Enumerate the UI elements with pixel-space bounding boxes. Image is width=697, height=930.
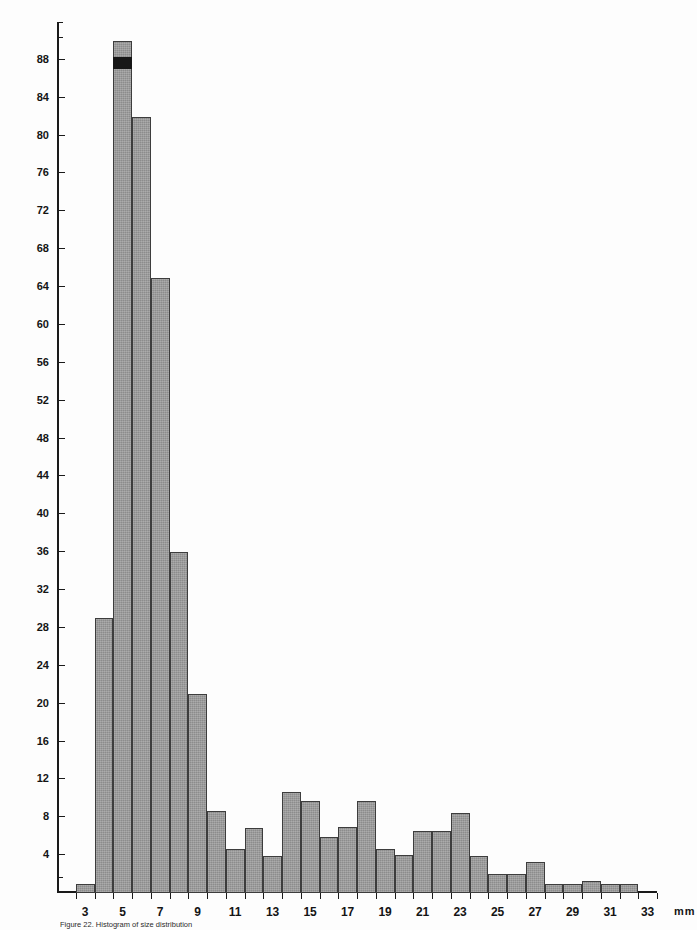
x-axis-label-9: 9 <box>183 906 213 918</box>
y-axis-label-44: 44 <box>23 470 49 481</box>
histogram-bar <box>263 856 282 893</box>
x-tick-11 <box>245 893 246 899</box>
histogram-bar <box>320 837 339 893</box>
x-axis-label-7: 7 <box>145 906 175 918</box>
y-axis-label-60: 60 <box>23 319 49 330</box>
y-axis-line <box>57 22 59 893</box>
histogram-bar <box>301 801 320 893</box>
histogram-bar <box>207 811 226 893</box>
y-tick-minor-low <box>59 877 63 878</box>
y-axis-label-64: 64 <box>23 281 49 292</box>
x-axis-label-33: 33 <box>633 906 663 918</box>
x-tick-16 <box>338 893 339 899</box>
x-axis-label-11: 11 <box>220 906 250 918</box>
histogram-bar <box>488 874 507 893</box>
y-tick-24 <box>59 665 65 666</box>
y-axis-label-88: 88 <box>23 54 49 65</box>
x-tick-26 <box>526 893 527 899</box>
y-axis-label-76: 76 <box>23 167 49 178</box>
figure-caption: Figure 22. Histogram of size distributio… <box>60 921 680 929</box>
x-tick-9 <box>207 893 208 899</box>
x-axis-label-31: 31 <box>595 906 625 918</box>
histogram-bar <box>432 831 451 893</box>
x-axis-label-5: 5 <box>108 906 138 918</box>
x-tick-22 <box>451 893 452 899</box>
y-axis-label-68: 68 <box>23 243 49 254</box>
x-tick-7 <box>170 893 171 899</box>
x-tick-25 <box>507 893 508 899</box>
y-tick-84 <box>59 97 65 98</box>
histogram-bar <box>76 884 95 893</box>
histogram-bar <box>151 278 170 893</box>
histogram-bar <box>95 618 114 893</box>
x-axis-label-3: 3 <box>70 906 100 918</box>
x-tick-10 <box>226 893 227 899</box>
x-tick-31 <box>620 893 621 899</box>
y-tick-36 <box>59 551 65 552</box>
y-tick-80 <box>59 135 65 136</box>
y-tick-44 <box>59 475 65 476</box>
y-tick-72 <box>59 210 65 211</box>
x-tick-18 <box>376 893 377 899</box>
x-tick-24 <box>488 893 489 899</box>
y-tick-56 <box>59 362 65 363</box>
x-axis-label-13: 13 <box>258 906 288 918</box>
x-tick-14 <box>301 893 302 899</box>
x-tick-21 <box>432 893 433 899</box>
histogram-bar <box>601 884 620 893</box>
x-tick-32 <box>638 893 639 899</box>
histogram-bar <box>451 813 470 893</box>
x-tick-20 <box>413 893 414 899</box>
x-axis-label-27: 27 <box>520 906 550 918</box>
x-axis-label-19: 19 <box>370 906 400 918</box>
histogram-bar <box>357 801 376 893</box>
x-tick-15 <box>320 893 321 899</box>
x-tick-28 <box>563 893 564 899</box>
histogram-bar <box>395 855 414 893</box>
x-tick-23 <box>470 893 471 899</box>
y-tick-minor-1 <box>59 22 63 23</box>
x-tick-3 <box>95 893 96 899</box>
y-tick-16 <box>59 741 65 742</box>
histogram-bar <box>132 117 151 893</box>
y-tick-20 <box>59 703 65 704</box>
x-axis-label-21: 21 <box>408 906 438 918</box>
x-axis-label-23: 23 <box>445 906 475 918</box>
y-tick-32 <box>59 589 65 590</box>
y-axis-label-20: 20 <box>23 698 49 709</box>
y-axis-label-72: 72 <box>23 205 49 216</box>
figure-container: 4812162024283236404448525660646872768084… <box>0 0 697 930</box>
y-axis-label-16: 16 <box>23 736 49 747</box>
y-tick-4 <box>59 854 65 855</box>
histogram-bar <box>620 884 639 893</box>
y-tick-40 <box>59 513 65 514</box>
y-axis-label-8: 8 <box>23 811 49 822</box>
histogram-bar <box>170 552 189 893</box>
y-axis-label-56: 56 <box>23 357 49 368</box>
x-tick-17 <box>357 893 358 899</box>
x-tick-27 <box>545 893 546 899</box>
histogram-bar <box>545 884 564 893</box>
y-tick-48 <box>59 438 65 439</box>
y-axis-label-28: 28 <box>23 622 49 633</box>
histogram-bar <box>338 827 357 893</box>
y-tick-64 <box>59 286 65 287</box>
x-axis-label-15: 15 <box>295 906 325 918</box>
y-axis-label-80: 80 <box>23 130 49 141</box>
y-tick-52 <box>59 400 65 401</box>
histogram-bar <box>376 849 395 893</box>
x-tick-29 <box>582 893 583 899</box>
y-tick-8 <box>59 816 65 817</box>
y-axis-label-52: 52 <box>23 395 49 406</box>
histogram-bar <box>470 856 489 893</box>
y-axis-label-4: 4 <box>23 849 49 860</box>
y-axis-label-32: 32 <box>23 584 49 595</box>
x-tick-13 <box>282 893 283 899</box>
x-tick-2 <box>76 893 77 899</box>
y-tick-12 <box>59 778 65 779</box>
x-tick-8 <box>188 893 189 899</box>
histogram-bar <box>245 828 264 893</box>
histogram-bar <box>413 831 432 893</box>
histogram-plot: 4812162024283236404448525660646872768084… <box>57 22 657 893</box>
y-tick-60 <box>59 324 65 325</box>
